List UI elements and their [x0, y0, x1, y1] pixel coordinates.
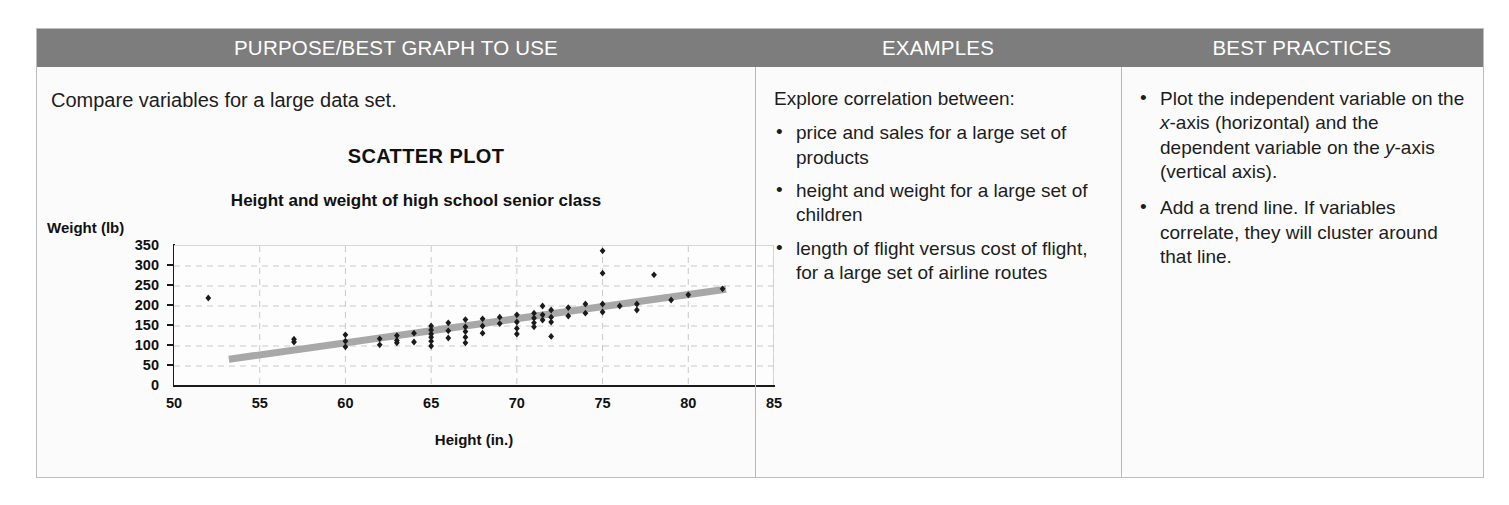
table-body-row: Compare variables for a large data set. …	[37, 67, 1483, 477]
scatter-point	[548, 319, 554, 326]
scatter-point	[428, 343, 434, 350]
x-axis-tick-label: 80	[680, 395, 696, 411]
x-axis-title: Height (in.)	[173, 431, 775, 448]
y-axis-tick-label: 150	[101, 318, 159, 333]
x-axis-tick-label: 75	[594, 395, 610, 411]
y-axis-tick-label: 250	[101, 278, 159, 293]
scatter-point	[205, 295, 211, 302]
y-axis-tick-label: 350	[101, 238, 159, 253]
scatter-point	[480, 330, 486, 337]
scatter-chart: Weight (lb) 050100150200250300350 505560…	[45, 219, 755, 469]
x-axis-tick-label: 70	[509, 395, 525, 411]
x-axis-tick-label: 50	[166, 395, 182, 411]
scatter-point	[514, 331, 520, 338]
bullet-text-run: -axis (horizontal) and the dependent var…	[1160, 112, 1385, 157]
best-practices-bullet-list: Plot the independent variable on the x-a…	[1138, 87, 1471, 269]
bullet-text-run: Plot the independent variable on the	[1160, 88, 1464, 109]
plot-area	[174, 245, 774, 385]
y-axis-tick-label: 100	[101, 338, 159, 353]
column-examples: Explore correlation between: price and s…	[755, 67, 1121, 477]
scatter-point	[463, 316, 469, 323]
y-axis-tick-label: 50	[101, 358, 159, 373]
scatter-point	[540, 303, 546, 310]
y-axis-tick-label: 200	[101, 298, 159, 313]
scatter-point	[651, 271, 657, 278]
best-practices-bullet-item: Plot the independent variable on the x-a…	[1138, 87, 1471, 184]
examples-bullet-item: height and weight for a large set of chi…	[774, 179, 1107, 228]
x-axis-tick-label: 65	[423, 395, 439, 411]
chart-title: Height and weight of high school senior …	[37, 191, 755, 211]
trend-line	[229, 289, 726, 359]
examples-content: Explore correlation between: price and s…	[774, 87, 1107, 294]
scatter-point	[600, 247, 606, 254]
column-best-practices: Plot the independent variable on the x-a…	[1121, 67, 1483, 477]
examples-bullet-list: price and sales for a large set of produ…	[774, 121, 1107, 285]
scatter-point	[634, 307, 640, 314]
column-header-purpose: PURPOSE/BEST GRAPH TO USE	[37, 29, 755, 67]
scatter-plot-reference-table: PURPOSE/BEST GRAPH TO USE EXAMPLES BEST …	[0, 0, 1509, 505]
purpose-lead-text: Compare variables for a large data set.	[51, 89, 397, 112]
axis-variable-italic: x	[1160, 112, 1170, 133]
scatter-point	[411, 339, 417, 346]
column-header-examples: EXAMPLES	[755, 29, 1121, 67]
examples-bullet-item: length of flight versus cost of flight, …	[774, 237, 1107, 286]
scatter-point	[548, 333, 554, 340]
scatter-point	[343, 331, 349, 338]
x-axis-tick-label: 60	[337, 395, 353, 411]
scatter-point	[531, 323, 537, 330]
plot-svg	[174, 246, 774, 386]
bullet-text-run: Add a trend line. If variables correlate…	[1160, 197, 1438, 267]
x-axis-tick-label: 55	[252, 395, 268, 411]
best-practices-content: Plot the independent variable on the x-a…	[1138, 87, 1471, 281]
scatter-point	[463, 339, 469, 346]
comparison-table-card: PURPOSE/BEST GRAPH TO USE EXAMPLES BEST …	[36, 28, 1484, 478]
y-axis-title: Weight (lb)	[47, 219, 124, 236]
y-axis-tick-label: 0	[101, 378, 159, 393]
examples-bullet-item: price and sales for a large set of produ…	[774, 121, 1107, 170]
axis-variable-italic: y	[1385, 137, 1395, 158]
chart-type-label: SCATTER PLOT	[37, 145, 755, 168]
scatter-point	[600, 270, 606, 277]
scatter-point	[445, 335, 451, 342]
best-practices-bullet-item: Add a trend line. If variables correlate…	[1138, 196, 1471, 269]
scatter-point	[377, 341, 383, 348]
y-axis-tick-label: 300	[101, 258, 159, 273]
examples-intro: Explore correlation between:	[774, 87, 1107, 111]
column-purpose: Compare variables for a large data set. …	[37, 67, 755, 477]
column-header-best-practices: BEST PRACTICES	[1121, 29, 1483, 67]
table-header-row: PURPOSE/BEST GRAPH TO USE EXAMPLES BEST …	[37, 29, 1483, 67]
